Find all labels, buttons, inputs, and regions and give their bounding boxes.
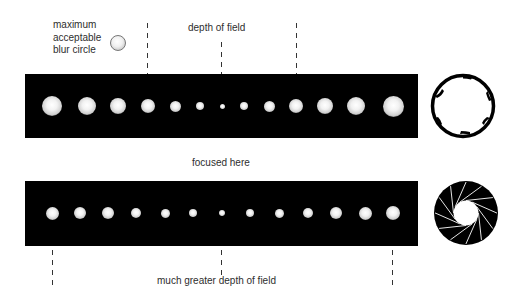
bottom-dof-far-line: [392, 250, 393, 290]
narrow-blur-dot: [161, 209, 170, 218]
wide-blur-dot: [141, 99, 155, 113]
focus-plane-line-top: [221, 42, 222, 75]
focused-here-label: focused here: [192, 157, 250, 170]
wide-blur-dot: [110, 98, 126, 114]
narrow-blur-dot: [219, 210, 225, 216]
narrow-blur-dot: [246, 209, 254, 217]
blur-circle-label: maximum acceptable blur circle: [53, 19, 101, 57]
narrow-blur-dot: [46, 207, 59, 220]
narrow-blur-dot: [386, 206, 400, 220]
focus-plane-line-bottom: [221, 250, 222, 276]
wide-blur-dot: [170, 101, 181, 112]
narrow-blur-dot: [303, 208, 313, 218]
narrow-blur-dot: [275, 209, 284, 218]
wide-blur-dot: [317, 98, 333, 114]
narrow-blur-dot: [359, 207, 372, 220]
blur-circle-icon: [110, 35, 126, 51]
wide-aperture-icon: [430, 73, 496, 139]
dof-far-limit-line: [296, 23, 297, 75]
narrow-blur-dot: [330, 207, 342, 219]
wide-blur-dot: [220, 104, 225, 109]
wide-blur-dot: [42, 96, 62, 116]
wide-blur-dot: [240, 102, 248, 110]
wide-blur-dot: [78, 97, 96, 115]
narrow-blur-dot: [74, 207, 86, 219]
wide-blur-dot: [264, 101, 275, 112]
narrow-aperture-icon: [433, 180, 499, 246]
greater-depth-label: much greater depth of field: [157, 275, 276, 288]
wide-blur-dot: [383, 96, 404, 117]
bottom-dof-near-line: [52, 250, 53, 290]
narrow-blur-dot: [131, 208, 141, 218]
wide-blur-dot: [196, 102, 204, 110]
blur-circle-label-line2: acceptable: [53, 32, 101, 45]
wide-blur-dot: [289, 99, 303, 113]
narrow-blur-dot: [189, 209, 197, 217]
blur-circle-label-line3: blur circle: [53, 44, 101, 57]
wide-blur-dot: [347, 97, 365, 115]
blur-circle-label-line1: maximum: [53, 19, 101, 32]
depth-of-field-label: depth of field: [188, 22, 245, 35]
dof-near-limit-line: [147, 23, 148, 75]
narrow-blur-dot: [102, 207, 114, 219]
